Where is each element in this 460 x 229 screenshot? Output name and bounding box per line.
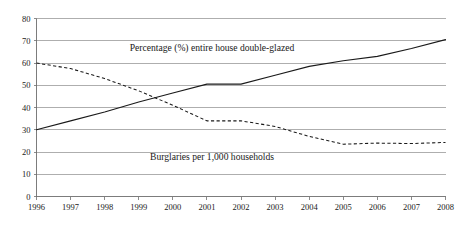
y-axis-tick-label: 20 — [22, 147, 31, 157]
series-annotations: Percentage (%) entire house double-glaze… — [130, 42, 295, 162]
y-axis-tick-label: 80 — [22, 14, 31, 24]
y-axis-tick-label: 60 — [22, 58, 31, 68]
x-axis-tick-label: 2000 — [164, 202, 181, 212]
x-axis-tick-label: 2002 — [233, 202, 250, 212]
x-axis-tick-label: 2004 — [301, 202, 319, 212]
x-axis-tick-label: 2003 — [267, 202, 284, 212]
line-chart: 01020304050607080 1996199719981999200020… — [0, 0, 460, 229]
data-series — [37, 40, 446, 145]
chart-canvas: 01020304050607080 1996199719981999200020… — [0, 0, 460, 229]
x-axis-tick-label: 1998 — [96, 202, 113, 212]
x-axis-tick-label: 2005 — [335, 202, 352, 212]
annotation-burglaries-label: Burglaries per 1,000 households — [150, 151, 274, 162]
series-line-double-glazed — [37, 40, 446, 130]
x-axis-tick-label: 1997 — [62, 202, 79, 212]
y-axis-tick-label: 50 — [22, 80, 31, 90]
y-axis-tick-labels: 01020304050607080 — [22, 14, 31, 202]
annotation-double-glazed-label: Percentage (%) entire house double-glaze… — [130, 42, 295, 54]
x-axis-tick-label: 2001 — [198, 202, 215, 212]
y-axis-tick-label: 70 — [22, 36, 31, 46]
x-axis-tick-label: 2006 — [369, 202, 386, 212]
x-axis-tick-label: 1999 — [130, 202, 147, 212]
x-axis-tick-label: 1996 — [28, 202, 45, 212]
x-axis-tick-label: 2008 — [437, 202, 454, 212]
y-axis-tick-label: 40 — [22, 103, 31, 113]
y-axis-tick-label: 30 — [22, 125, 31, 135]
y-axis-tick-label: 0 — [26, 192, 30, 202]
x-axis-tick-label: 2007 — [403, 202, 420, 212]
y-axis-tick-label: 10 — [22, 169, 31, 179]
series-line-burglaries — [37, 63, 446, 144]
x-axis-tick-labels: 1996199719981999200020012002200320042005… — [28, 202, 454, 212]
